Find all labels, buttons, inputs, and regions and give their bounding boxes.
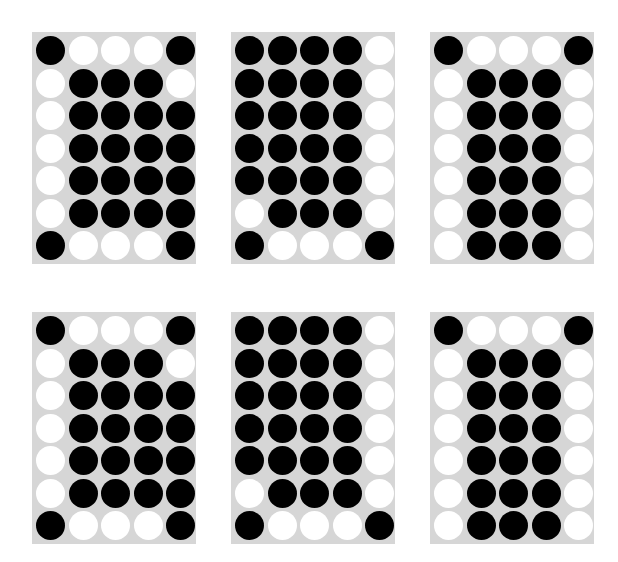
empty-dot (564, 479, 593, 508)
filled-dot (300, 381, 329, 410)
filled-dot (467, 381, 496, 410)
empty-dot (166, 69, 195, 98)
filled-dot (467, 134, 496, 163)
filled-dot (166, 101, 195, 130)
empty-dot (235, 199, 264, 228)
filled-dot (101, 166, 130, 195)
filled-dot (268, 101, 297, 130)
filled-dot (235, 134, 264, 163)
empty-dot (36, 381, 65, 410)
filled-dot (300, 134, 329, 163)
empty-dot (434, 134, 463, 163)
filled-dot (434, 36, 463, 65)
empty-dot (532, 36, 561, 65)
panel-3 (430, 32, 594, 264)
filled-dot (69, 381, 98, 410)
filled-dot (300, 414, 329, 443)
empty-dot (36, 479, 65, 508)
empty-dot (268, 511, 297, 540)
filled-dot (365, 231, 394, 260)
filled-dot (499, 69, 528, 98)
empty-dot (69, 36, 98, 65)
panel-5 (231, 312, 395, 544)
empty-dot (564, 414, 593, 443)
filled-dot (235, 166, 264, 195)
filled-dot (134, 134, 163, 163)
empty-dot (166, 349, 195, 378)
empty-dot (564, 134, 593, 163)
filled-dot (134, 349, 163, 378)
filled-dot (499, 349, 528, 378)
empty-dot (532, 316, 561, 345)
filled-dot (101, 446, 130, 475)
filled-dot (499, 511, 528, 540)
empty-dot (365, 316, 394, 345)
empty-dot (564, 349, 593, 378)
empty-dot (365, 134, 394, 163)
empty-dot (101, 231, 130, 260)
filled-dot (101, 349, 130, 378)
filled-dot (36, 316, 65, 345)
empty-dot (365, 166, 394, 195)
filled-dot (36, 511, 65, 540)
filled-dot (300, 101, 329, 130)
filled-dot (564, 316, 593, 345)
empty-dot (499, 316, 528, 345)
filled-dot (69, 446, 98, 475)
empty-dot (101, 36, 130, 65)
filled-dot (69, 101, 98, 130)
empty-dot (365, 414, 394, 443)
filled-dot (532, 381, 561, 410)
filled-dot (333, 69, 362, 98)
filled-dot (499, 381, 528, 410)
filled-dot (532, 69, 561, 98)
filled-dot (300, 166, 329, 195)
filled-dot (69, 69, 98, 98)
filled-dot (134, 101, 163, 130)
filled-dot (69, 166, 98, 195)
empty-dot (36, 349, 65, 378)
filled-dot (467, 69, 496, 98)
empty-dot (564, 231, 593, 260)
filled-dot (235, 511, 264, 540)
filled-dot (564, 36, 593, 65)
filled-dot (499, 414, 528, 443)
empty-dot (333, 231, 362, 260)
filled-dot (69, 349, 98, 378)
filled-dot (333, 414, 362, 443)
empty-dot (434, 166, 463, 195)
filled-dot (268, 446, 297, 475)
filled-dot (101, 134, 130, 163)
empty-dot (564, 199, 593, 228)
filled-dot (166, 446, 195, 475)
filled-dot (499, 101, 528, 130)
empty-dot (564, 69, 593, 98)
empty-dot (564, 511, 593, 540)
filled-dot (235, 381, 264, 410)
empty-dot (564, 381, 593, 410)
filled-dot (166, 36, 195, 65)
filled-dot (101, 479, 130, 508)
empty-dot (268, 231, 297, 260)
empty-dot (134, 36, 163, 65)
filled-dot (333, 199, 362, 228)
panel-1 (32, 32, 196, 264)
empty-dot (36, 69, 65, 98)
filled-dot (300, 36, 329, 65)
filled-dot (235, 446, 264, 475)
filled-dot (235, 349, 264, 378)
filled-dot (235, 69, 264, 98)
filled-dot (101, 199, 130, 228)
filled-dot (532, 414, 561, 443)
filled-dot (101, 101, 130, 130)
filled-dot (532, 479, 561, 508)
empty-dot (134, 316, 163, 345)
filled-dot (333, 101, 362, 130)
filled-dot (166, 479, 195, 508)
filled-dot (166, 414, 195, 443)
filled-dot (268, 414, 297, 443)
filled-dot (333, 316, 362, 345)
empty-dot (69, 231, 98, 260)
filled-dot (467, 101, 496, 130)
filled-dot (268, 316, 297, 345)
